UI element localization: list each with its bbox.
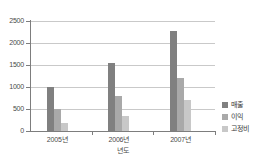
legend-item[interactable]: 매출 xyxy=(222,99,260,111)
x-axis-tick xyxy=(153,131,154,135)
x-axis-tick-label: 2006년 xyxy=(96,136,142,144)
chart-legend: 매출이익고정비 xyxy=(222,99,260,135)
y-axis-tick-label: 2500 xyxy=(0,17,24,24)
bar-이익-2005년 xyxy=(54,109,61,131)
x-axis-title: 년도 xyxy=(30,147,216,155)
legend-item[interactable]: 이익 xyxy=(222,111,260,123)
y-axis-tick-label: 500 xyxy=(0,105,24,112)
bar-고정비-2005년 xyxy=(61,123,68,131)
bar-이익-2006년 xyxy=(115,96,122,131)
legend-label: 매출 xyxy=(231,101,243,109)
x-axis-tick-label: 2005년 xyxy=(34,136,80,144)
legend-swatch-icon xyxy=(222,114,228,120)
legend-swatch-icon xyxy=(222,126,228,132)
y-axis-tick-label: 1500 xyxy=(0,61,24,68)
legend-label: 고정비 xyxy=(231,125,248,133)
bar-이익-2007년 xyxy=(177,78,184,131)
plot-area xyxy=(30,21,215,131)
y-axis-tick-label: 2000 xyxy=(0,39,24,46)
bar-매출-2005년 xyxy=(47,87,54,131)
bar-매출-2006년 xyxy=(108,63,115,131)
legend-item[interactable]: 고정비 xyxy=(222,123,260,135)
legend-swatch-icon xyxy=(222,102,228,108)
y-axis-tick-label: 0 xyxy=(0,127,24,134)
x-axis-tick xyxy=(215,131,216,135)
x-axis-tick xyxy=(92,131,93,135)
bar-chart: 05001000150020002500 2005년2006년2007년 년도 … xyxy=(0,0,260,159)
x-axis-line xyxy=(30,131,216,132)
bar-매출-2007년 xyxy=(170,31,177,131)
bar-고정비-2007년 xyxy=(184,100,191,131)
y-axis-tick-label: 1000 xyxy=(0,83,24,90)
legend-label: 이익 xyxy=(231,113,243,121)
x-axis-tick-label: 2007년 xyxy=(157,136,203,144)
bar-고정비-2006년 xyxy=(122,116,129,131)
